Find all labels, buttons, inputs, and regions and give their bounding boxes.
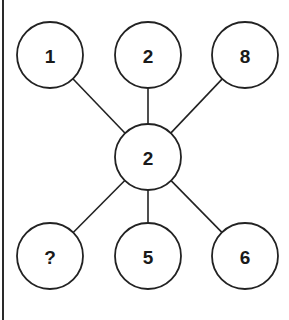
node-value-label: 1 <box>45 46 56 67</box>
node-value-label: 8 <box>240 46 251 67</box>
node-bottom-right: 6 <box>212 223 278 289</box>
edge-center-to-top-right <box>171 79 223 133</box>
edge-center-to-bottom-left <box>73 180 125 232</box>
number-star-diagram: 128?562 <box>0 0 289 320</box>
node-value-label: 2 <box>143 148 154 169</box>
edge-center-to-bottom-right <box>171 181 222 233</box>
nodes-group: 128?562 <box>17 22 278 289</box>
node-value-label: 2 <box>143 46 154 67</box>
node-top-right: 8 <box>212 22 278 88</box>
node-value-label: 5 <box>143 247 154 268</box>
node-center: 2 <box>115 124 181 190</box>
node-value-label: 6 <box>240 247 251 268</box>
edge-center-to-top-left <box>73 79 125 133</box>
node-top-left: 1 <box>17 22 83 88</box>
node-top-middle: 2 <box>115 22 181 88</box>
node-bottom-middle: 5 <box>115 223 181 289</box>
unknown-value-label: ? <box>44 247 56 268</box>
node-bottom-left: ? <box>17 223 83 289</box>
